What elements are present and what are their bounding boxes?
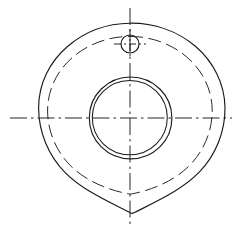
technical-drawing-canvas (0, 0, 243, 233)
drawing-svg (0, 0, 243, 233)
bolt-circle-dashed (48, 36, 213, 194)
